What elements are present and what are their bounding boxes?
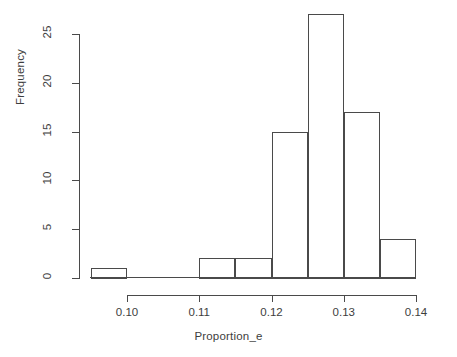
x-tick-label: 0.10 <box>102 306 152 318</box>
histogram-plot: Frequency 0510152025 0.100.110.120.130.1… <box>0 0 457 357</box>
histogram-bar <box>380 239 416 279</box>
x-tick-mark <box>199 295 200 302</box>
x-tick-label: 0.12 <box>247 306 297 318</box>
histogram-bar <box>344 112 380 279</box>
x-tick-mark <box>416 295 417 302</box>
histogram-bar <box>308 14 344 279</box>
x-tick-label: 0.13 <box>319 306 369 318</box>
x-tick-label: 0.11 <box>174 306 224 318</box>
baseline <box>90 277 416 278</box>
histogram-bar <box>235 258 271 279</box>
x-tick-mark <box>272 295 273 302</box>
x-axis-title: Proportion_e <box>0 330 457 342</box>
bars-layer <box>0 0 457 357</box>
x-tick-mark <box>344 295 345 302</box>
x-tick-mark <box>127 295 128 302</box>
x-tick-label: 0.14 <box>391 306 441 318</box>
histogram-bar <box>199 258 235 279</box>
histogram-bar <box>272 132 308 279</box>
